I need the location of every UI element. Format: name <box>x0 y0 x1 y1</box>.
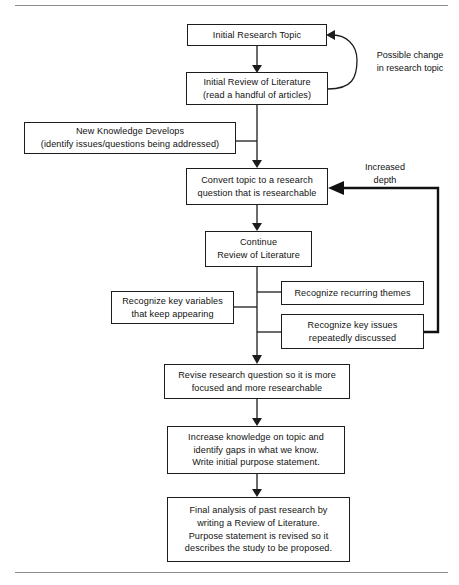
edge-possible-change-curve <box>328 35 357 89</box>
node-increase-knowledge[interactable]: Increase knowledge on topic and identify… <box>167 426 345 474</box>
node-label: Recognize recurring themes <box>291 287 413 300</box>
arrowhead-increased-depth <box>328 181 344 195</box>
node-convert-topic[interactable]: Convert topic to a research question tha… <box>186 168 328 205</box>
node-label: Recognize key issues repeatedly discusse… <box>305 319 401 344</box>
node-recognize-key-issues[interactable]: Recognize key issues repeatedly discusse… <box>281 314 424 349</box>
node-initial-review-of-literature[interactable]: Initial Review of Literature (read a han… <box>186 72 328 105</box>
arrowhead-convert <box>252 160 262 168</box>
node-initial-research-topic[interactable]: Initial Research Topic <box>187 24 327 46</box>
node-recognize-key-variables[interactable]: Recognize key variables that keep appear… <box>111 291 234 324</box>
node-label: Initial Research Topic <box>210 29 304 42</box>
top-divider-rule <box>15 5 448 6</box>
arrowhead-revise <box>252 355 262 364</box>
node-continue-review-of-literature[interactable]: Continue Review of Literature <box>205 231 312 267</box>
label-increased-depth: Increased depth <box>355 161 415 186</box>
node-label: Continue Review of Literature <box>214 236 303 261</box>
node-revise-research-question[interactable]: Revise research question so it is more f… <box>164 364 350 399</box>
edge-increased-depth-loop <box>341 188 438 332</box>
node-recognize-recurring-themes[interactable]: Recognize recurring themes <box>281 281 424 305</box>
node-label: Revise research question so it is more f… <box>175 369 339 394</box>
flowchart-figure: Initial Research Topic Initial Review of… <box>0 0 459 585</box>
bottom-divider-rule <box>15 572 448 573</box>
node-label: Convert topic to a research question tha… <box>195 174 320 199</box>
arrowhead-increase <box>252 418 262 426</box>
arrowhead-final <box>252 489 262 497</box>
arrowhead-possible-change <box>326 30 335 40</box>
node-label: Final analysis of past research by writi… <box>182 504 335 554</box>
node-label: Increase knowledge on topic and identify… <box>185 431 327 469</box>
node-final-analysis[interactable]: Final analysis of past research by writi… <box>167 497 350 562</box>
label-possible-change: Possible change in research topic <box>362 49 458 74</box>
node-new-knowledge-develops[interactable]: New Knowledge Develops (identify issues/… <box>24 122 236 154</box>
node-label: Recognize key variables that keep appear… <box>119 295 226 320</box>
node-label: New Knowledge Develops (identify issues/… <box>38 125 222 150</box>
arrowhead-continue <box>252 223 262 231</box>
node-label: Initial Review of Literature (read a han… <box>200 76 314 101</box>
